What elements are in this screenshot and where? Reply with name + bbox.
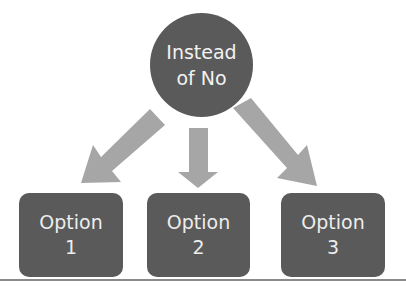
option-2-number: 2	[192, 235, 204, 260]
arrow-down-icon	[178, 128, 218, 188]
option-1-number: 1	[65, 235, 77, 260]
option-2-label: Option	[167, 210, 230, 235]
root-node-line1: Instead	[166, 39, 236, 65]
option-1-label: Option	[39, 210, 102, 235]
root-node: Instead of No	[150, 13, 253, 117]
option-3-node: Option 3	[281, 193, 385, 277]
option-3-label: Option	[301, 210, 364, 235]
bottom-divider	[0, 279, 406, 281]
arrow-right-icon	[233, 98, 317, 186]
option-1-node: Option 1	[19, 193, 123, 277]
arrow-left-icon	[81, 109, 165, 183]
option-3-number: 3	[327, 235, 339, 260]
root-node-line2: of No	[176, 65, 226, 91]
option-2-node: Option 2	[147, 193, 250, 277]
